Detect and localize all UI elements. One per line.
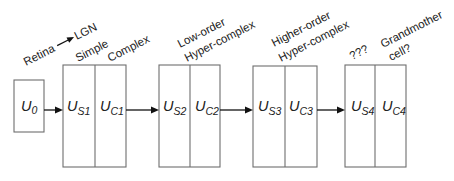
- svg-text:Grandmother: Grandmother: [378, 8, 444, 50]
- stage-block-2: US2 UC2: [159, 65, 220, 167]
- diagram-canvas: U0 US1 UC1 US2 UC2 US3 UC3 US4 UC4: [0, 0, 454, 181]
- stage-u0: U0: [14, 80, 44, 132]
- retina-lgn-arrow: [57, 40, 69, 46]
- label-retina: Retina: [21, 42, 57, 68]
- arrowhead-icon: [337, 107, 345, 114]
- label-complex: Complex: [105, 32, 151, 63]
- label-grandmother: Grandmother: [378, 8, 444, 50]
- arrowhead-icon: [151, 107, 159, 114]
- arrowhead-icon: [245, 107, 253, 114]
- arrow-u0-to-block1: [44, 107, 63, 114]
- stage-block-3: US3 UC3: [253, 66, 317, 167]
- svg-text:Complex: Complex: [105, 32, 151, 63]
- label-retina-lgn: Retina LGN: [21, 20, 98, 67]
- stage-block-1: US1 UC1: [63, 65, 126, 167]
- stage-block-4: US4 UC4: [345, 65, 406, 167]
- label-unknown: ???: [347, 42, 370, 61]
- label-lgn: LGN: [72, 20, 99, 41]
- arrow-block2-to-block3: [220, 107, 253, 114]
- neocognitron-diagram: U0 US1 UC1 US2 UC2 US3 UC3 US4 UC4: [0, 0, 454, 181]
- svg-text:???: ???: [347, 42, 370, 61]
- arrowhead-icon: [55, 107, 63, 114]
- arrow-block1-to-block2: [126, 107, 159, 114]
- arrow-block3-to-block4: [317, 107, 345, 114]
